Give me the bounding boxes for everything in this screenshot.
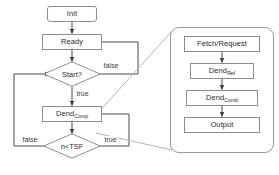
node-init[interactable]: Init xyxy=(47,6,97,22)
node-dend-ref-label: DendRef xyxy=(209,67,235,75)
node-dend-comb-label: DendComb xyxy=(206,94,238,102)
edge-label-start-false: false xyxy=(103,62,119,69)
node-dend-ref[interactable]: DendRef xyxy=(190,63,254,79)
node-start-decision[interactable]: Start? xyxy=(43,61,101,87)
flowchart-diagram: Init Ready Start? DendComp n<TSF false t… xyxy=(0,0,279,175)
node-dend-comp-subscript: Comp xyxy=(74,113,88,119)
node-dend-comp-label: DendComp xyxy=(56,110,88,118)
node-dend-comb-subscript: Comb xyxy=(224,97,238,103)
edge-label-ntsf-true: true xyxy=(104,136,117,143)
node-dend-comp-base: Dend xyxy=(56,109,74,118)
node-dend-ref-subscript: Ref xyxy=(227,70,235,76)
node-ready-label: Ready xyxy=(61,38,83,46)
node-start-label: Start? xyxy=(43,61,101,87)
node-ready[interactable]: Ready xyxy=(42,34,102,50)
node-ntsf-label: n<TSF xyxy=(43,133,101,159)
node-fetch-request-label: Fetch/Request xyxy=(197,40,247,48)
node-init-label: Init xyxy=(67,10,77,18)
node-ntsf-decision[interactable]: n<TSF xyxy=(43,133,101,159)
edge-label-start-true: true xyxy=(76,90,89,97)
node-dend-comp[interactable]: DendComp xyxy=(42,106,102,122)
node-output-label: Output xyxy=(210,121,233,129)
node-dend-comb-base: Dend xyxy=(206,93,224,102)
callout-leader-lines xyxy=(96,31,172,150)
node-fetch-request[interactable]: Fetch/Request xyxy=(184,36,260,52)
edge-label-ntsf-false: false xyxy=(22,136,38,143)
node-dend-comb[interactable]: DendComb xyxy=(186,90,258,106)
node-dend-ref-base: Dend xyxy=(209,66,227,75)
node-output[interactable]: Output xyxy=(184,117,260,133)
